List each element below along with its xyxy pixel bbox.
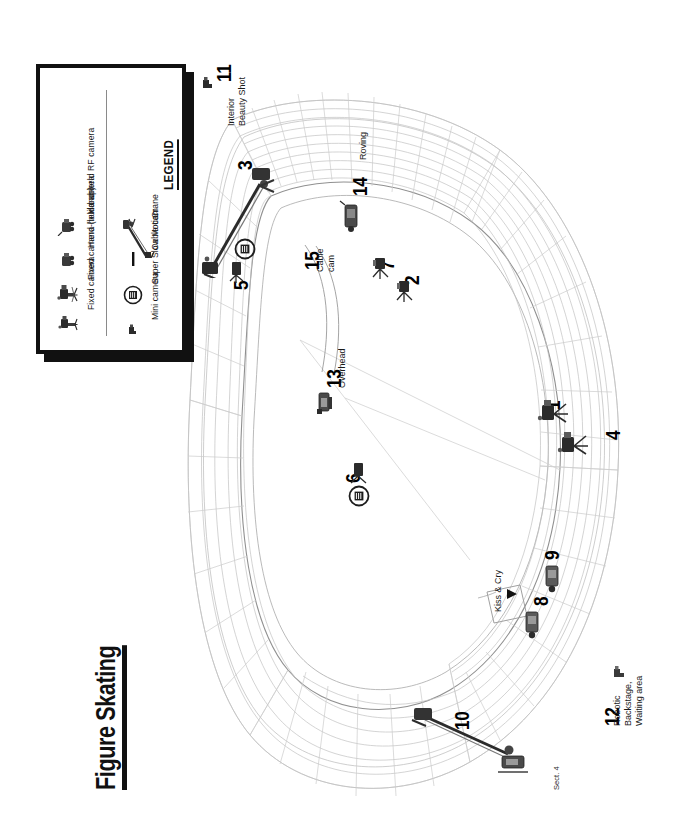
super-slow-motion-icon xyxy=(346,483,372,509)
fixed-camera-icon xyxy=(370,255,392,281)
kiss-and-cry-pointer-icon xyxy=(503,586,521,604)
camera-number-9: 9 xyxy=(540,551,564,560)
camera-note-14: Roving xyxy=(358,132,369,160)
mini-camera-icon xyxy=(196,72,218,92)
camera-head-icon xyxy=(228,258,246,284)
camera-note-11: Interior Beauty Shot xyxy=(226,77,248,126)
camera-number-8: 8 xyxy=(529,597,553,606)
fixed-camera-buildup-icon xyxy=(54,280,80,302)
camera-note-13: Overhead xyxy=(337,348,348,388)
legend-heading: LEGEND xyxy=(162,140,179,190)
crane-icon xyxy=(410,700,530,780)
hand-held-rf-camera-icon xyxy=(338,200,364,236)
fixed-camera-icon xyxy=(54,310,80,332)
legend-label-hand-held-rf-camera: Hand-held RF camera xyxy=(86,128,96,214)
camera-number-4: 4 xyxy=(601,431,625,440)
hand-held-camera-icon xyxy=(540,562,564,596)
camera-note-12: Robotic Backstage, Waiting area xyxy=(612,676,645,726)
camera-head-icon xyxy=(348,460,370,486)
hand-held-camera-icon xyxy=(54,248,80,270)
legend-divider xyxy=(106,90,107,336)
fixed-camera-buildup-icon xyxy=(556,426,590,458)
fixed-camera-buildup-icon xyxy=(536,394,570,426)
legend-label-crane: Crane xyxy=(150,194,160,218)
camera-number-14: 14 xyxy=(348,178,372,196)
overhead-camera-icon xyxy=(310,386,342,416)
fixed-camera-icon xyxy=(394,278,416,304)
super-slow-motion-icon xyxy=(122,284,148,306)
crane-icon xyxy=(116,218,160,258)
section-label: Sect. 4 xyxy=(552,766,561,790)
hand-held-rf-camera-icon xyxy=(54,214,80,236)
camera-note-15: Cable cam xyxy=(315,248,337,272)
mini-camera-icon xyxy=(122,320,148,342)
mini-camera-icon xyxy=(608,660,630,682)
legend-box: LEGEND Fixed camera xyxy=(36,64,186,354)
hand-held-camera-icon xyxy=(520,608,544,642)
